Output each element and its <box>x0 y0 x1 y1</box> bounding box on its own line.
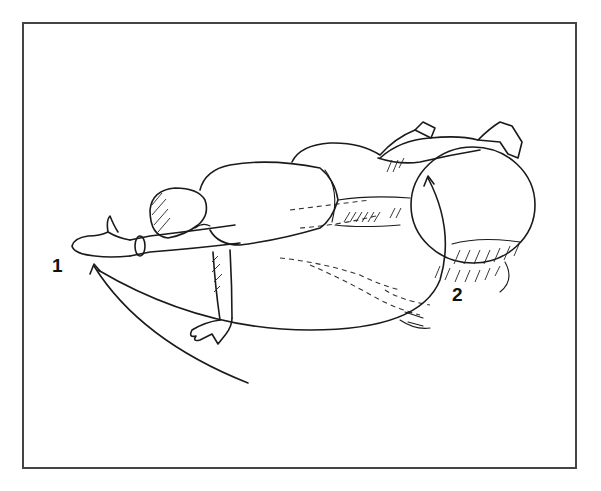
position-label-1: 1 <box>52 255 63 277</box>
motion-arc-to-position-2 <box>98 176 445 330</box>
figure-legs <box>292 122 522 172</box>
motion-arrow-position-1 <box>90 264 248 383</box>
position-label-2: 2 <box>452 284 463 306</box>
ghost-figure-position-2 <box>280 200 430 328</box>
exercise-illustration <box>0 0 601 491</box>
stability-ball <box>411 147 535 292</box>
figure-torso <box>200 162 410 245</box>
figure-head <box>150 188 210 238</box>
curved-arrow-icon <box>98 178 445 330</box>
curved-arrow-icon <box>94 266 248 383</box>
figure-support-arm <box>191 250 232 344</box>
